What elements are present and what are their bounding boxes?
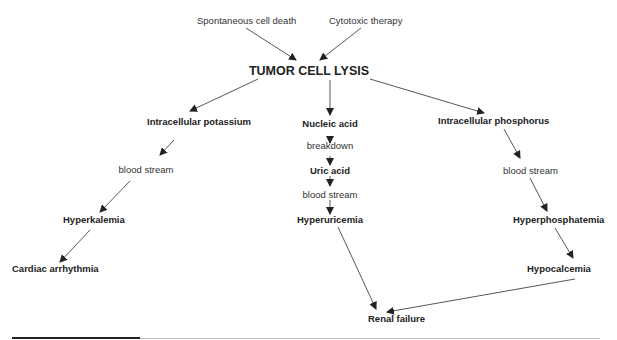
footer-rule-thick	[12, 337, 140, 339]
node-uric-acid: Uric acid	[310, 165, 350, 176]
footer-rule-thin	[140, 338, 600, 339]
cause-spontaneous-cell-death: Spontaneous cell death	[197, 15, 296, 26]
node-hyperphosphatemia: Hyperphosphatemia	[513, 214, 604, 225]
link-breakdown: breakdown	[307, 140, 353, 151]
node-hyperuricemia: Hyperuricemia	[297, 214, 363, 225]
main-node-title: TUMOR CELL LYSIS	[249, 64, 369, 78]
node-intracellular-potassium: Intracellular potassium	[147, 116, 251, 127]
cause-cytotoxic-therapy: Cytotoxic therapy	[329, 15, 402, 26]
node-intracellular-phosphorus: Intracellular phosphorus	[438, 115, 549, 126]
link-blood-stream-center: blood stream	[303, 189, 358, 200]
node-cardiac-arrhythmia: Cardiac arrhythmia	[12, 263, 99, 274]
node-hyperkalemia: Hyperkalemia	[63, 214, 125, 225]
link-blood-stream-right: blood stream	[503, 165, 558, 176]
node-renal-failure: Renal failure	[368, 313, 425, 324]
node-nucleic-acid: Nucleic acid	[302, 118, 357, 129]
link-blood-stream-left: blood stream	[119, 164, 174, 175]
node-hypocalcemia: Hypocalcemia	[527, 263, 591, 274]
